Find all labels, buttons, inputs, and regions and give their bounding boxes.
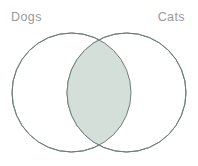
set-label-dogs: Dogs xyxy=(11,11,42,24)
venn-diagram-canvas xyxy=(0,0,198,166)
venn-diagram-figure: Dogs Cats xyxy=(0,0,198,166)
set-label-cats: Cats xyxy=(158,11,185,24)
